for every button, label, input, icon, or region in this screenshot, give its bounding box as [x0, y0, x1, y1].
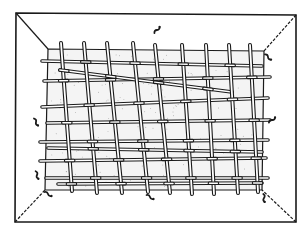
- worm-icon: [268, 116, 276, 124]
- stipple-dot: [236, 108, 237, 109]
- stipple-dot: [75, 112, 76, 113]
- stipple-dot: [55, 73, 56, 74]
- stipple-dot: [118, 100, 119, 101]
- worm-icon: [262, 194, 266, 203]
- stipple-dot: [227, 71, 228, 72]
- stipple-dot: [98, 152, 99, 153]
- stipple-dot: [155, 112, 156, 113]
- stipple-dot: [76, 151, 77, 152]
- stipple-dot: [178, 104, 179, 105]
- worm-icon: [44, 191, 53, 197]
- stipple-dot: [148, 84, 149, 85]
- worm-icon: [146, 194, 155, 200]
- corner-edge: [15, 190, 45, 222]
- stipple-dot: [173, 115, 174, 116]
- stipple-dot: [191, 73, 192, 74]
- stipple-dot: [122, 83, 123, 84]
- woven-rod-box-illustration: [0, 0, 306, 236]
- stipple-dot: [106, 100, 107, 101]
- stipple-dot: [164, 186, 165, 187]
- horizontal-rod: [58, 183, 262, 184]
- stipple-dot: [67, 54, 68, 55]
- rod-crossing: [107, 76, 115, 77]
- stipple-dot: [147, 73, 148, 74]
- stipple-dot: [108, 118, 109, 119]
- stipple-dot: [216, 70, 217, 71]
- stipple-dot: [108, 131, 109, 132]
- stipple-dot: [130, 180, 131, 181]
- stipple-dot: [154, 147, 155, 148]
- stipple-dot: [164, 96, 165, 97]
- stipple-dot: [82, 157, 83, 158]
- stipple-dot: [138, 126, 139, 127]
- stipple-dot: [108, 100, 109, 101]
- worm-icon: [35, 171, 40, 180]
- stipple-dot: [153, 128, 154, 129]
- stipple-dot: [100, 172, 101, 173]
- worm-icon: [33, 118, 39, 127]
- stipple-dot: [237, 129, 238, 130]
- stipple-dot: [151, 94, 152, 95]
- stipple-dot: [243, 136, 244, 137]
- stipple-dot: [131, 56, 132, 57]
- stipple-dot: [68, 186, 69, 187]
- stipple-dot: [169, 81, 170, 82]
- stipple-dot: [183, 164, 184, 165]
- stipple-dot: [251, 134, 252, 135]
- stipple-dot: [244, 169, 245, 170]
- stipple-dot: [166, 129, 167, 130]
- stipple-dot: [105, 84, 106, 85]
- stipple-dot: [162, 89, 163, 90]
- stipple-dot: [51, 100, 52, 101]
- stipple-dot: [163, 59, 164, 60]
- stipple-dot: [218, 108, 219, 109]
- stipple-dot: [62, 152, 63, 153]
- stipple-dot: [56, 133, 57, 134]
- corner-edge: [264, 15, 296, 51]
- stipple-dot: [198, 146, 199, 147]
- stipple-dot: [114, 175, 115, 176]
- stipple-dot: [175, 105, 176, 106]
- stipple-dot: [123, 99, 124, 100]
- rod-crossing: [60, 70, 68, 71]
- stipple-dot: [240, 144, 241, 145]
- stipple-dot: [122, 108, 123, 109]
- stipple-dot: [74, 85, 75, 86]
- stipple-dot: [60, 99, 61, 100]
- stipple-dot: [151, 86, 152, 87]
- stipple-dot: [150, 108, 151, 109]
- stipple-dot: [60, 102, 61, 103]
- stipple-dot: [119, 55, 120, 56]
- illustration-canvas: [0, 0, 306, 236]
- stipple-dot: [67, 74, 68, 75]
- stipple-dot: [173, 107, 174, 108]
- stipple-dot: [215, 148, 216, 149]
- stipple-dot: [117, 73, 118, 74]
- stipple-dot: [98, 137, 99, 138]
- stipple-dot: [153, 59, 154, 60]
- stipple-dot: [143, 83, 144, 84]
- rod-crossing: [204, 88, 212, 89]
- corner-edge: [262, 190, 296, 222]
- stipple-dot: [98, 92, 99, 93]
- stipple-dot: [85, 186, 86, 187]
- stipple-dot: [221, 135, 222, 136]
- worm-icon: [154, 25, 162, 33]
- worm-icon: [264, 54, 272, 62]
- stipple-dot: [120, 97, 121, 98]
- corner-edge: [16, 13, 48, 49]
- stipple-dot: [75, 174, 76, 175]
- stipple-dot: [166, 55, 167, 56]
- stipple-dot: [144, 111, 145, 112]
- stipple-dot: [66, 171, 67, 172]
- stipple-dot: [167, 118, 168, 119]
- stipple-dot: [142, 166, 143, 167]
- stipple-dot: [173, 112, 174, 113]
- stipple-dot: [98, 165, 99, 166]
- rod-crossing: [155, 82, 163, 83]
- stipple-dot: [106, 156, 107, 157]
- stipple-dot: [238, 88, 239, 89]
- stipple-dot: [102, 85, 103, 86]
- stipple-dot: [145, 127, 146, 128]
- stipple-dot: [192, 74, 193, 75]
